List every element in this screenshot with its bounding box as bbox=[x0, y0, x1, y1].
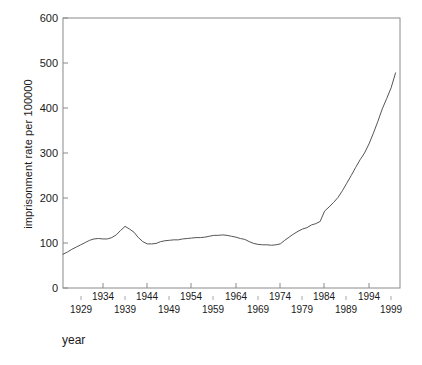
plot-frame bbox=[63, 18, 400, 288]
x-tick-label-1994: 1994 bbox=[349, 292, 389, 302]
y-tick-label-0: 0 bbox=[24, 283, 58, 294]
x-tick-label-1979: 1979 bbox=[282, 305, 322, 315]
y-tick-label-600: 600 bbox=[24, 13, 58, 24]
y-tick-label-500: 500 bbox=[24, 58, 58, 69]
y-tick-label-400: 400 bbox=[24, 103, 58, 114]
x-tick-label-1929: 1929 bbox=[61, 305, 101, 315]
x-tick-label-1944: 1944 bbox=[127, 292, 167, 302]
x-tick-label-1999: 1999 bbox=[371, 305, 411, 315]
x-tick-label-1949: 1949 bbox=[149, 305, 189, 315]
x-tick-label-1964: 1964 bbox=[216, 292, 256, 302]
x-tick-label-1954: 1954 bbox=[171, 292, 211, 302]
y-tick-label-100: 100 bbox=[24, 238, 58, 249]
imprisonment-rate-line bbox=[63, 73, 396, 254]
x-tick-label-1984: 1984 bbox=[304, 292, 344, 302]
y-axis-ticks bbox=[63, 18, 68, 288]
x-tick-label-1969: 1969 bbox=[238, 305, 278, 315]
x-tick-label-1939: 1939 bbox=[105, 305, 145, 315]
y-tick-label-200: 200 bbox=[24, 193, 58, 204]
x-axis-ticks-upper bbox=[103, 283, 369, 288]
x-tick-label-1974: 1974 bbox=[260, 292, 300, 302]
imprisonment-rate-chart: imprisonment rate per 100000 600 500 400… bbox=[0, 0, 422, 365]
x-axis-title: year bbox=[62, 333, 85, 347]
x-tick-label-1934: 1934 bbox=[83, 292, 123, 302]
y-tick-label-300: 300 bbox=[24, 148, 58, 159]
x-tick-label-1959: 1959 bbox=[193, 305, 233, 315]
x-tick-label-1989: 1989 bbox=[326, 305, 366, 315]
